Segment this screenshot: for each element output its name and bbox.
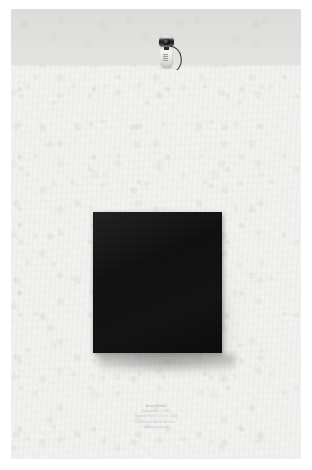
artwork-caption: Anna Chinich Evaporation I, 2019 Organdy… [11,404,301,430]
webcam-icon [156,35,178,69]
webcam-cable [169,44,191,70]
panel-bottom-shadow [99,355,235,371]
webcam-stand-detail [163,54,168,61]
paper-sheet: Anna Chinich Evaporation I, 2019 Organdy… [11,9,301,459]
black-square-panel [93,212,222,353]
artwork-photo: Anna Chinich Evaporation I, 2019 Organdy… [0,0,312,470]
caption-line-gallery: Gallery: privacies [11,425,301,430]
